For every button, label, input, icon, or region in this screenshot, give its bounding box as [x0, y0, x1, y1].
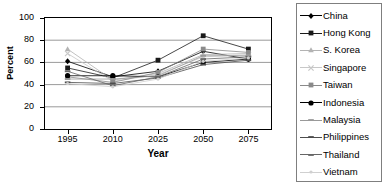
data-point-marker	[65, 51, 70, 56]
data-point-marker	[65, 73, 70, 78]
legend-key-icon	[300, 10, 322, 22]
legend-label: Philippines	[322, 132, 369, 142]
line-chart: 020406080100 Percent 1995201020252050207…	[0, 0, 290, 185]
legend-item-thailand[interactable]: Thailand	[297, 146, 381, 163]
legend-key-icon	[300, 131, 322, 143]
legend-marker-icon	[300, 166, 322, 178]
legend-label: Malaysia	[322, 115, 361, 125]
data-point-marker	[200, 55, 206, 57]
x-tick-mark	[113, 130, 114, 134]
x-tick-label: 2050	[180, 134, 226, 144]
data-point-marker	[201, 33, 206, 38]
data-point-marker	[65, 70, 71, 72]
legend-item-vietnam[interactable]: Vietnam	[297, 164, 381, 181]
x-tick-mark	[158, 130, 159, 134]
legend-item-china[interactable]: China	[297, 7, 381, 24]
legend-item-indonesia[interactable]: Indonesia	[297, 94, 381, 111]
legend-label: Thailand	[322, 150, 359, 160]
x-tick-mark	[68, 130, 69, 134]
data-point-marker	[309, 31, 314, 36]
y-axis: 020406080100	[0, 0, 44, 185]
legend-key-icon	[300, 62, 322, 74]
chart-screenshot: 020406080100 Percent 1995201020252050207…	[0, 0, 385, 185]
data-point-marker	[156, 70, 161, 75]
legend-item-philippines[interactable]: Philippines	[297, 129, 381, 146]
data-point-marker	[65, 58, 70, 64]
legend-label: Vietnam	[322, 167, 358, 177]
legend-marker-icon	[300, 10, 322, 22]
data-point-marker	[308, 119, 314, 121]
legend-label: Taiwan	[322, 80, 353, 90]
data-point-marker	[309, 83, 314, 88]
legend-key-icon	[300, 97, 322, 109]
data-point-marker	[110, 83, 116, 85]
data-point-marker	[65, 78, 71, 80]
data-point-marker	[200, 64, 206, 66]
legend-item-s-korea[interactable]: S. Korea	[297, 42, 381, 59]
legend-item-singapore[interactable]: Singapore	[297, 59, 381, 76]
legend-item-taiwan[interactable]: Taiwan	[297, 77, 381, 94]
legend-marker-icon	[300, 131, 322, 143]
legend-marker-icon	[300, 79, 322, 91]
legend-label: Hong Kong	[322, 28, 371, 38]
x-axis-title: Year	[44, 148, 272, 159]
y-tick-label: 0	[0, 124, 34, 133]
legend-key-icon	[300, 27, 322, 39]
data-point-marker	[65, 46, 71, 51]
data-point-marker	[308, 100, 313, 105]
legend-item-malaysia[interactable]: Malaysia	[297, 111, 381, 128]
data-point-marker	[156, 58, 161, 63]
legend-key-icon	[300, 114, 322, 126]
legend-key-icon	[300, 149, 322, 161]
data-point-marker	[308, 13, 313, 19]
x-tick-label: 2075	[225, 134, 271, 144]
data-point-marker	[202, 60, 205, 63]
legend-item-hong-kong[interactable]: Hong Kong	[297, 24, 381, 41]
data-point-marker	[246, 50, 251, 55]
legend-key-icon	[300, 79, 322, 91]
legend-key-icon	[300, 44, 322, 56]
series-layer	[45, 18, 271, 129]
legend-key-icon	[300, 166, 322, 178]
x-tick-label: 1995	[45, 134, 91, 144]
x-tick-label: 2010	[90, 134, 136, 144]
data-point-marker	[308, 154, 314, 156]
legend-label: Indonesia	[322, 98, 364, 108]
legend-marker-icon	[300, 114, 322, 126]
data-point-marker	[110, 73, 115, 78]
y-tick-label: 100	[0, 13, 34, 22]
chart-legend: ChinaHong KongS. KoreaSingaporeTaiwanInd…	[296, 3, 382, 182]
x-tick-mark	[203, 130, 204, 134]
data-point-marker	[308, 137, 314, 139]
data-point-marker	[66, 82, 69, 85]
legend-marker-icon	[300, 62, 322, 74]
legend-label: S. Korea	[322, 45, 360, 55]
data-point-marker	[201, 47, 206, 52]
legend-marker-icon	[300, 149, 322, 161]
legend-marker-icon	[300, 97, 322, 109]
legend-label: Singapore	[322, 63, 366, 73]
data-point-marker	[309, 171, 312, 174]
x-tick-label: 2025	[135, 134, 181, 144]
data-point-marker	[308, 65, 313, 70]
plot-area	[44, 17, 272, 130]
data-point-marker	[156, 77, 159, 80]
data-point-marker	[247, 56, 250, 59]
data-point-marker	[65, 66, 70, 71]
legend-marker-icon	[300, 44, 322, 56]
data-point-marker	[111, 85, 114, 88]
x-tick-mark	[248, 130, 249, 134]
y-axis-title: Percent	[5, 35, 15, 91]
data-point-marker	[110, 78, 116, 80]
legend-label: China	[322, 11, 348, 21]
y-tick-label: 20	[0, 102, 34, 111]
legend-marker-icon	[300, 27, 322, 39]
data-point-marker	[308, 48, 314, 53]
